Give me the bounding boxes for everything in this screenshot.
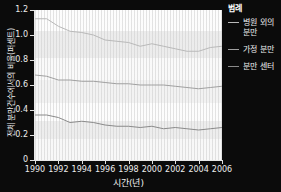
y-tick-mark [30, 110, 34, 111]
x-tick-label: 2002 [162, 166, 188, 174]
legend-line-icon [228, 22, 239, 23]
x-tick-mark [199, 160, 200, 164]
y-tick-mark [30, 160, 34, 161]
y-tick-mark [30, 85, 34, 86]
y-tick-mark [30, 135, 34, 136]
plot-area [35, 10, 222, 160]
x-tick-mark [35, 160, 36, 164]
legend: 범례 병원 외의 분만 가정 분만 분만 센터 [228, 4, 281, 79]
x-axis-title: 시간(년) [35, 178, 222, 188]
legend-item-birth-center[interactable]: 분만 센터 [228, 62, 281, 72]
chart-screenshot: 00.20.40.60.81.01.2 19901992199419961998… [0, 0, 281, 192]
x-tick-mark [105, 160, 106, 164]
x-tick-label: 2000 [139, 166, 165, 174]
y-tick-mark [30, 10, 34, 11]
y-tick-mark [30, 60, 34, 61]
x-tick-mark [82, 160, 83, 164]
y-axis-line [34, 10, 35, 161]
data-line-1 [35, 19, 222, 52]
legend-item-label: 가정 분만 [243, 45, 274, 55]
y-axis-title: 전체 분만건수에서의 비율(퍼센트) [7, 8, 16, 158]
legend-item-home-birth[interactable]: 가정 분만 [228, 45, 281, 55]
y-tick-mark [30, 35, 34, 36]
x-tick-label: 2004 [186, 166, 212, 174]
legend-item-label: 병원 외의 분만 [243, 18, 281, 38]
x-tick-mark [152, 160, 153, 164]
x-tick-label: 1998 [116, 166, 142, 174]
data-lines-svg [35, 10, 222, 160]
legend-item-label: 분만 센터 [243, 62, 274, 72]
legend-line-icon [228, 66, 239, 67]
x-tick-label: 1994 [69, 166, 95, 174]
x-tick-mark [129, 160, 130, 164]
x-tick-label: 1992 [45, 166, 71, 174]
legend-title: 범례 [228, 4, 281, 13]
x-tick-label: 1996 [92, 166, 118, 174]
legend-line-icon [228, 49, 239, 50]
data-line-2 [35, 75, 222, 89]
x-tick-mark [222, 160, 223, 164]
data-line-3 [35, 115, 222, 130]
x-tick-mark [58, 160, 59, 164]
x-tick-label: 1990 [22, 166, 48, 174]
legend-item-out-of-hospital-birth[interactable]: 병원 외의 분만 [228, 18, 281, 38]
x-tick-mark [175, 160, 176, 164]
x-tick-label: 2006 [209, 166, 235, 174]
